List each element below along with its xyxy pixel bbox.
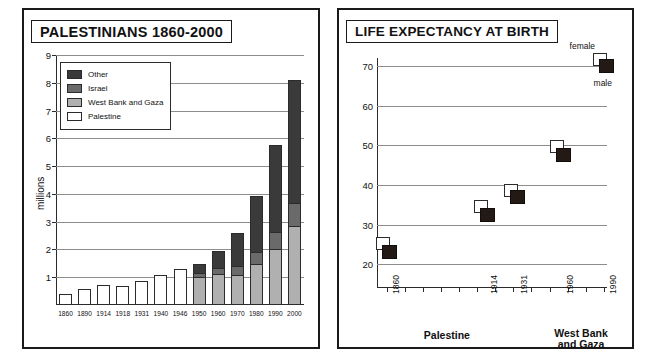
x-tick-mark-8 xyxy=(531,288,532,292)
bar-segment-palestine-1931 xyxy=(136,282,147,304)
x-tick-mark-12 xyxy=(604,288,605,292)
legend-label-other: Other xyxy=(88,70,108,79)
x-tick-mark-1 xyxy=(405,288,406,292)
legend-swatch-palestine xyxy=(67,112,82,121)
x-tick-year-1914: 1914 xyxy=(489,275,499,294)
y-tick-label-9: 9 xyxy=(36,50,51,61)
x-tick-mark-5 xyxy=(477,288,478,292)
bar-segment-wbg-1950 xyxy=(194,278,205,304)
bar-segment-other-1980 xyxy=(251,197,262,253)
y-tick-label-30: 30 xyxy=(353,219,373,230)
x-tick-mark-4 xyxy=(459,288,460,292)
bar-segment-palestine-1946 xyxy=(175,270,186,304)
gridline-40 xyxy=(377,185,607,186)
legend-item-other: Other xyxy=(67,68,163,82)
x-tick-year-1931: 1931 xyxy=(519,275,529,294)
page-title-right: LIFE EXPECTANCY AT BIRTH xyxy=(355,24,549,39)
y-axis-line xyxy=(377,58,378,288)
y-tick-label-20: 20 xyxy=(353,259,373,270)
bar-1918 xyxy=(116,286,129,305)
bar-segment-israel-1980 xyxy=(251,253,262,265)
y-tick-label-50: 50 xyxy=(353,140,373,151)
gridline-30 xyxy=(377,225,607,226)
y-tick-mark-9 xyxy=(52,55,56,56)
bar-segment-palestine-1914 xyxy=(98,286,109,304)
bar-segment-other-2000 xyxy=(289,81,300,204)
y-tick-label-6: 6 xyxy=(36,133,51,144)
y-tick-mark-8 xyxy=(52,83,56,84)
bar-2000 xyxy=(288,80,301,305)
bar-segment-palestine-1940 xyxy=(155,276,166,304)
gridline-70 xyxy=(377,66,607,67)
bar-1914 xyxy=(97,285,110,305)
bar-segment-other-1970 xyxy=(232,234,243,267)
annotation-female: female xyxy=(570,41,596,51)
gridline-3 xyxy=(56,222,304,223)
gridline-50 xyxy=(377,145,607,146)
x-tick-mark-7 xyxy=(513,288,514,292)
y-tick-label-7: 7 xyxy=(36,105,51,116)
figure-page: PALESTINIANS 1860-2000 millions Other Is… xyxy=(0,0,649,359)
bar-segment-wbg-1980 xyxy=(251,265,262,304)
x-tick-mark-9 xyxy=(550,288,551,292)
marker-male-1960 xyxy=(556,148,571,162)
y-tick-mark-7 xyxy=(52,111,56,112)
right-chart-title-box: LIFE EXPECTANCY AT BIRTH xyxy=(346,20,558,43)
bar-1970 xyxy=(231,233,244,305)
gridline-60 xyxy=(377,106,607,107)
bar-1931 xyxy=(135,281,148,305)
y-axis-line xyxy=(56,55,57,305)
y-tick-mark-5 xyxy=(52,166,56,167)
marker-male-1914 xyxy=(480,208,495,222)
y-tick-label-40: 40 xyxy=(353,179,373,190)
legend-label-west-bank-and-gaza: West Bank and Gaza xyxy=(88,98,163,107)
bar-segment-wbg-2000 xyxy=(289,227,300,304)
palestinians-chart-panel: PALESTINIANS 1860-2000 millions Other Is… xyxy=(22,8,320,349)
y-tick-mark-3 xyxy=(52,222,56,223)
x-tick-label-2000: 2000 xyxy=(280,310,308,317)
bar-1950 xyxy=(193,264,206,305)
bar-1990 xyxy=(269,145,282,305)
left-chart-title-box: PALESTINIANS 1860-2000 xyxy=(31,20,232,43)
life-expectancy-chart-panel: LIFE EXPECTANCY AT BIRTH female male 203… xyxy=(337,8,634,349)
bar-1860 xyxy=(59,294,72,305)
legend-item-palestine: Palestine xyxy=(67,110,163,124)
group-label-palestine: Palestine xyxy=(407,330,487,341)
bar-segment-palestine-1890 xyxy=(79,290,90,304)
chart-legend: Other Israel West Bank and Gaza Palestin… xyxy=(60,62,171,130)
legend-label-palestine: Palestine xyxy=(88,112,121,121)
marker-male-1990 xyxy=(599,59,614,73)
gridline-2 xyxy=(56,249,304,250)
bar-1946 xyxy=(174,269,187,305)
x-tick-year-1960: 1960 xyxy=(565,275,575,294)
gridline-6 xyxy=(56,138,304,139)
bar-segment-israel-1970 xyxy=(232,267,243,276)
marker-male-1860 xyxy=(382,245,397,259)
y-tick-mark-6 xyxy=(52,138,56,139)
bar-1960 xyxy=(212,251,225,305)
y-tick-label-70: 70 xyxy=(353,60,373,71)
y-tick-label-3: 3 xyxy=(36,216,51,227)
bar-1980 xyxy=(250,196,263,305)
legend-item-west-bank-and-gaza: West Bank and Gaza xyxy=(67,96,163,110)
bar-segment-israel-2000 xyxy=(289,204,300,228)
bar-1890 xyxy=(78,289,91,305)
y-tick-label-4: 4 xyxy=(36,188,51,199)
annotation-male: male xyxy=(594,78,612,88)
y-tick-label-60: 60 xyxy=(353,100,373,111)
x-tick-mark-11 xyxy=(586,288,587,292)
page-title-left: PALESTINIANS 1860-2000 xyxy=(40,24,223,40)
gridline-20 xyxy=(377,264,607,265)
x-tick-mark-3 xyxy=(441,288,442,292)
legend-label-israel: Israel xyxy=(88,84,108,93)
y-tick-mark-2 xyxy=(52,249,56,250)
y-tick-label-5: 5 xyxy=(36,161,51,172)
y-tick-label-1: 1 xyxy=(36,272,51,283)
x-tick-year-1860: 1860 xyxy=(391,275,401,294)
y-tick-label-8: 8 xyxy=(36,77,51,88)
legend-swatch-other xyxy=(67,70,82,79)
x-tick-year-1990: 1990 xyxy=(608,275,618,294)
x-tick-mark-2 xyxy=(423,288,424,292)
bar-segment-palestine-1918 xyxy=(117,287,128,304)
bar-segment-other-1950 xyxy=(194,265,205,274)
